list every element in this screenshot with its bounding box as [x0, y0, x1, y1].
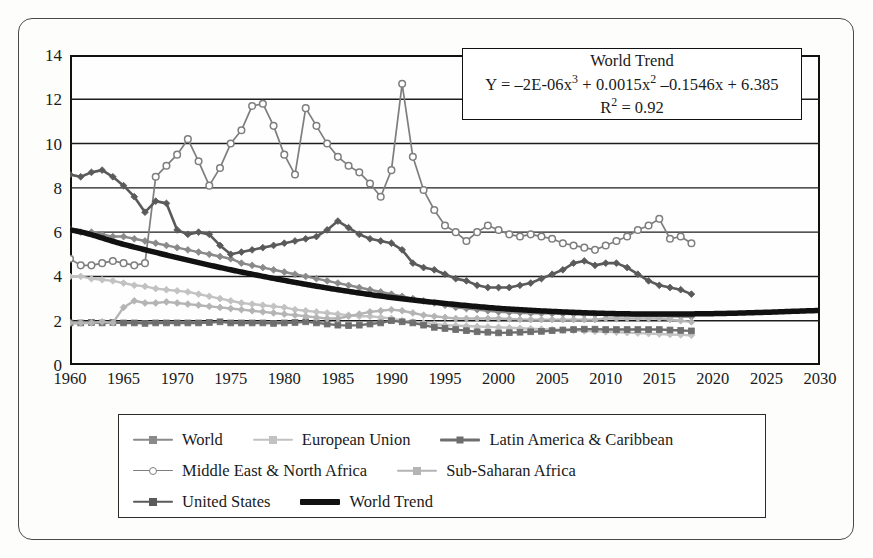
- x-axis-tick-label: 2005: [536, 369, 569, 389]
- data-point: [495, 227, 502, 234]
- data-point: [174, 244, 181, 251]
- data-point: [431, 324, 437, 330]
- data-point: [581, 244, 588, 251]
- data-point: [109, 277, 116, 284]
- data-point: [570, 242, 577, 249]
- legend-marker-icon: [149, 467, 157, 475]
- legend-key-square-icon: [440, 433, 480, 447]
- data-point: [292, 238, 299, 245]
- data-point: [163, 298, 170, 305]
- data-point: [592, 247, 599, 254]
- data-point: [184, 301, 191, 308]
- x-axis-tick-label: 1985: [321, 369, 354, 389]
- legend-line-swatch: [300, 499, 340, 505]
- trend-equation-box: World Trend Y = –2E-06x3 + 0.0015x2 –0.1…: [462, 48, 802, 120]
- legend-item[interactable]: Sub-Saharan Africa: [397, 461, 576, 481]
- data-point: [88, 262, 95, 269]
- legend-item[interactable]: World Trend: [300, 492, 432, 512]
- data-point: [367, 321, 373, 327]
- legend-item[interactable]: Latin America & Caribbean: [440, 430, 673, 450]
- data-point: [249, 307, 256, 314]
- data-point: [335, 154, 342, 161]
- legend-label: Sub-Saharan Africa: [446, 461, 576, 481]
- legend-item[interactable]: European Union: [253, 430, 411, 450]
- y-axis-tick-label: 10: [45, 135, 62, 152]
- data-point: [334, 280, 341, 287]
- data-point: [677, 317, 684, 324]
- data-point: [549, 316, 556, 323]
- data-point: [195, 249, 202, 256]
- data-point: [410, 320, 416, 326]
- data-point: [217, 295, 224, 302]
- data-point: [217, 304, 224, 311]
- data-point: [688, 318, 695, 325]
- data-point: [227, 140, 234, 147]
- data-point: [249, 262, 256, 269]
- data-point: [452, 229, 459, 236]
- data-point: [195, 302, 202, 309]
- data-point: [271, 320, 277, 326]
- legend-marker-icon: [413, 467, 421, 475]
- data-point: [581, 316, 588, 323]
- data-point: [228, 320, 234, 326]
- data-point: [239, 320, 245, 326]
- data-point: [592, 326, 598, 332]
- data-point: [367, 180, 374, 187]
- legend-key-circle-open-icon: [133, 464, 173, 478]
- data-point: [560, 240, 567, 247]
- data-point: [464, 328, 470, 334]
- data-point: [399, 307, 406, 314]
- data-point: [442, 314, 449, 321]
- data-point: [667, 327, 673, 333]
- legend-item[interactable]: Middle East & North Africa: [133, 461, 367, 481]
- legend-key-none-icon: [300, 495, 340, 509]
- data-point: [281, 151, 288, 158]
- y-axis-tick-label: 14: [45, 47, 62, 64]
- legend-item[interactable]: World: [133, 430, 223, 450]
- data-point: [442, 222, 449, 229]
- data-point: [677, 233, 684, 240]
- data-point: [635, 327, 641, 333]
- data-point: [164, 320, 170, 326]
- data-point: [377, 193, 384, 200]
- data-point: [399, 319, 405, 325]
- y-axis-tick-labels: 02468101214: [18, 55, 62, 365]
- legend-label: World: [182, 430, 223, 450]
- data-point: [238, 260, 245, 267]
- y-axis-tick-label: 6: [54, 224, 63, 241]
- data-point: [152, 240, 159, 247]
- x-axis-tick-label: 2010: [589, 369, 622, 389]
- data-point: [538, 233, 545, 240]
- data-point: [70, 171, 73, 178]
- data-point: [249, 320, 255, 326]
- data-point: [506, 330, 512, 336]
- data-point: [260, 320, 266, 326]
- data-point: [270, 242, 277, 249]
- data-point: [420, 312, 427, 319]
- data-point: [174, 320, 180, 326]
- data-point: [185, 320, 191, 326]
- data-point: [324, 277, 331, 284]
- data-point: [227, 305, 234, 312]
- data-point: [174, 300, 181, 307]
- legend-item[interactable]: United States: [133, 492, 270, 512]
- data-point: [442, 326, 448, 332]
- r-squared-value: = 0.92: [617, 98, 663, 117]
- data-point: [249, 301, 256, 308]
- data-point: [377, 307, 384, 314]
- data-point: [409, 310, 416, 317]
- legend-row: Middle East & North AfricaSub-Saharan Af…: [133, 455, 765, 486]
- data-point: [120, 233, 127, 240]
- data-point: [538, 316, 545, 323]
- data-point: [217, 253, 224, 260]
- x-axis-tick-label: 2000: [482, 369, 515, 389]
- data-point: [602, 260, 609, 267]
- data-point: [260, 100, 267, 107]
- data-point: [206, 303, 213, 310]
- data-point: [496, 330, 502, 336]
- data-point: [206, 182, 213, 189]
- data-point: [142, 260, 149, 267]
- data-point: [281, 240, 288, 247]
- data-point: [517, 282, 524, 289]
- data-point: [431, 313, 438, 320]
